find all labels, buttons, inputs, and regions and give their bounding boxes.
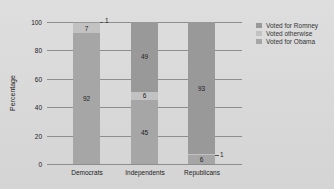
- y-axis-label: Percentage: [9, 75, 16, 111]
- legend: Voted for Romney Voted otherwise Voted f…: [256, 22, 318, 46]
- segment-romney: 93: [188, 22, 215, 154]
- legend-swatch: [256, 39, 262, 44]
- value-label: 6: [200, 156, 204, 163]
- bar-republicans: 93 6: [188, 22, 215, 164]
- value-label: 93: [198, 85, 205, 92]
- y-tick-80: 80: [22, 47, 42, 54]
- legend-label: Voted for Obama: [266, 38, 315, 45]
- y-tick-20: 20: [22, 132, 42, 139]
- segment-obama: 92: [73, 33, 100, 164]
- y-tick-60: 60: [22, 75, 42, 82]
- legend-label: Voted otherwise: [266, 30, 312, 37]
- value-label: 49: [141, 53, 148, 60]
- value-label-rep-other: 1: [220, 151, 224, 158]
- legend-swatch: [256, 31, 262, 36]
- category-republicans: Republicans: [172, 169, 232, 176]
- leader-line: [100, 22, 103, 23]
- value-label: 45: [141, 129, 148, 136]
- category-independents: Independents: [115, 169, 175, 176]
- gridline-0: [47, 164, 242, 165]
- legend-swatch: [256, 23, 262, 28]
- legend-item-romney: Voted for Romney: [256, 22, 318, 29]
- category-democrats: Democrats: [57, 169, 117, 176]
- segment-otherwise: 6: [131, 92, 158, 101]
- segment-romney: 49: [131, 22, 158, 92]
- y-tick-0: 0: [22, 161, 42, 168]
- value-label: 6: [143, 92, 147, 99]
- leader-line: [215, 155, 219, 156]
- legend-item-otherwise: Voted otherwise: [256, 30, 318, 37]
- segment-obama: 6: [188, 155, 215, 164]
- y-tick-100: 100: [22, 19, 42, 26]
- value-label: 92: [83, 95, 90, 102]
- bar-independents: 49 6 45: [131, 22, 158, 164]
- value-label: 7: [85, 25, 89, 32]
- chart-frame: Percentage 100 80 60 40 20 0 7 92 1 49 6…: [0, 0, 334, 189]
- segment-otherwise: 7: [73, 23, 100, 33]
- value-label-dem-romney: 1: [105, 17, 109, 24]
- y-tick-40: 40: [22, 104, 42, 111]
- legend-item-obama: Voted for Obama: [256, 38, 318, 45]
- bar-democrats: 7 92: [73, 22, 100, 164]
- segment-obama: 45: [131, 100, 158, 164]
- legend-label: Voted for Romney: [266, 22, 318, 29]
